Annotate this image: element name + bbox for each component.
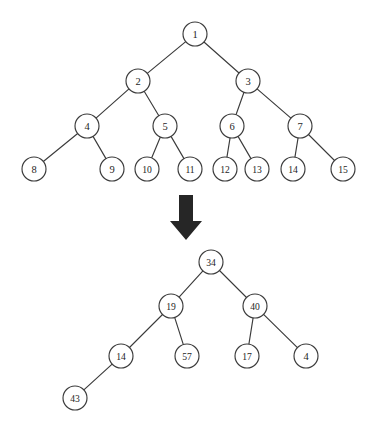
tree-edge [144,91,159,115]
node-label: 4 [84,121,90,132]
tree-node-43[interactable]: 43 [63,386,87,410]
node-label: 3 [245,76,250,87]
tree-edge [175,317,184,344]
node-label: 14 [116,351,126,362]
top-tree-nodes: 123456789101112131415 [22,22,355,181]
tree-node-57[interactable]: 57 [175,344,199,368]
tree-node-8[interactable]: 8 [22,157,46,181]
node-label: 34 [206,257,216,268]
tree-node-10[interactable]: 10 [135,157,159,181]
node-label: 6 [229,121,234,132]
tree-node-4[interactable]: 4 [294,344,318,368]
tree-edge [238,136,251,158]
node-label: 13 [252,164,262,175]
node-label: 2 [135,76,140,87]
tree-edge [227,138,230,157]
tree-node-6[interactable]: 6 [220,114,244,138]
node-label: 14 [288,164,298,175]
tree-node-19[interactable]: 19 [159,294,183,318]
node-label: 17 [242,351,252,362]
node-label: 43 [70,393,80,404]
tree-diagram-canvas: 123456789101112131415341940145717443 [0,0,374,433]
node-label: 9 [109,164,114,175]
arrow-layer [170,195,202,240]
tree-node-7[interactable]: 7 [288,114,312,138]
tree-node-17[interactable]: 17 [235,344,259,368]
node-label: 7 [297,121,302,132]
tree-node-3[interactable]: 3 [236,69,260,93]
tree-edge [147,42,185,74]
node-label: 40 [250,301,260,312]
tree-edge [93,136,106,158]
tree-edge [219,270,246,297]
tree-edge [236,92,244,114]
node-label: 11 [185,164,194,175]
down-arrow-icon [170,195,202,240]
tree-edge [43,134,77,162]
tree-edge [257,89,291,118]
tree-node-12[interactable]: 12 [213,157,237,181]
node-label: 12 [220,164,230,175]
tree-node-14[interactable]: 14 [281,157,305,181]
tree-edge [179,271,203,297]
tree-node-4[interactable]: 4 [75,114,99,138]
tree-node-34[interactable]: 34 [199,250,223,274]
tree-node-11[interactable]: 11 [178,157,202,181]
tree-node-2[interactable]: 2 [126,69,150,93]
tree-edge [171,136,184,158]
tree-edge [204,42,239,73]
tree-edge [152,137,161,158]
tree-node-1[interactable]: 1 [183,22,207,46]
tree-node-14[interactable]: 14 [109,344,133,368]
node-label: 57 [182,351,192,362]
node-label: 19 [166,301,176,312]
node-label: 4 [303,351,309,362]
tree-node-5[interactable]: 5 [153,114,177,138]
figure-container: 123456789101112131415341940145717443 [0,0,374,433]
node-label: 10 [142,164,152,175]
node-label: 5 [162,121,167,132]
node-label: 15 [338,164,348,175]
tree-edge [249,318,253,344]
tree-node-15[interactable]: 15 [331,157,355,181]
node-label: 1 [192,29,197,40]
tree-node-13[interactable]: 13 [245,157,269,181]
node-label: 8 [31,164,36,175]
tree-node-9[interactable]: 9 [100,157,124,181]
tree-edge [308,134,334,160]
tree-edge [129,314,162,347]
tree-edge [295,138,298,157]
tree-edge [84,364,112,390]
tree-node-40[interactable]: 40 [243,294,267,318]
tree-edge [264,314,298,347]
top-tree-edges [43,42,334,162]
tree-edge [96,89,129,118]
bottom-tree-edges [84,270,298,389]
